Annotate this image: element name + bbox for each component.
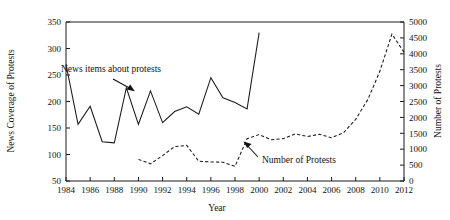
y-axis-right-ticklabel: 3000 (409, 81, 428, 91)
x-axis-ticks: 1984198619881990199219941996199820002002… (57, 177, 413, 195)
x-axis-ticklabel: 1994 (178, 185, 197, 195)
y-axis-right-ticklabel: 3500 (409, 65, 428, 75)
annotation-news-items-label: News items about protests (61, 64, 161, 74)
annotation-number-protests-label: Number of Protests (262, 155, 336, 165)
series-line-number-of-protests (138, 34, 404, 166)
y-axis-right-title: Number of Protests (433, 64, 443, 138)
x-axis-ticklabel: 1988 (105, 185, 124, 195)
y-axis-right-ticklabel: 2500 (409, 97, 428, 107)
x-axis-ticklabel: 1998 (226, 185, 245, 195)
x-axis-ticklabel: 1984 (57, 185, 76, 195)
y-axis-left-title: News Coverage of Protests (6, 49, 16, 152)
x-axis-ticklabel: 1986 (81, 185, 100, 195)
y-axis-right-ticklabel: 500 (409, 160, 423, 170)
x-axis-ticklabel: 2012 (395, 185, 413, 195)
x-axis-ticklabel: 2000 (250, 185, 269, 195)
y-axis-right-ticklabel: 1000 (409, 144, 428, 154)
y-axis-left-ticklabel: 300 (48, 44, 62, 54)
y-axis-left-ticklabel: 200 (48, 97, 62, 107)
series-group (66, 33, 404, 167)
y-axis-left-ticks: 50100150200250300350 (48, 17, 71, 186)
y-axis-left-ticklabel: 350 (48, 17, 62, 27)
x-axis-ticklabel: 2010 (371, 185, 390, 195)
axes-frame (66, 22, 404, 181)
x-axis-title: Year (208, 203, 226, 213)
x-axis-ticklabel: 2008 (347, 185, 366, 195)
chart-figure: 50100150200250300350 0500100015002000250… (0, 0, 450, 220)
x-axis-ticklabel: 2002 (274, 185, 292, 195)
y-axis-right-ticklabel: 4000 (409, 49, 428, 59)
annotation-number-protests: Number of Protests (243, 141, 336, 165)
annotation-news-items-arrowhead (127, 85, 135, 92)
annotation-news-items: News items about protests (61, 64, 161, 91)
y-axis-left-ticklabel: 250 (48, 70, 62, 80)
y-axis-right-ticklabel: 1500 (409, 129, 428, 139)
y-axis-left-ticklabel: 100 (48, 150, 62, 160)
y-axis-right-ticklabel: 4500 (409, 33, 428, 43)
chart-svg: 50100150200250300350 0500100015002000250… (0, 0, 450, 220)
x-axis-ticklabel: 2006 (323, 185, 342, 195)
x-axis-ticklabel: 1990 (129, 185, 148, 195)
x-axis-ticklabel: 2004 (298, 185, 317, 195)
x-axis-ticklabel: 1992 (154, 185, 172, 195)
y-axis-right-ticklabel: 5000 (409, 17, 428, 27)
x-axis-ticklabel: 1996 (202, 185, 221, 195)
y-axis-left-ticklabel: 150 (48, 123, 62, 133)
y-axis-right-ticklabel: 2000 (409, 113, 428, 123)
series-line-news-items-about-protests (66, 33, 259, 143)
